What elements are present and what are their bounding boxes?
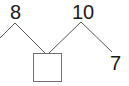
answer-blank-box[interactable]: [33, 53, 62, 82]
node-label-8: 8: [10, 2, 21, 22]
line-8-to-box: [15, 23, 45, 53]
line-10-to-7: [81, 22, 112, 52]
node-label-10: 10: [72, 2, 94, 22]
line-10-to-box: [49, 22, 81, 53]
line-8-to-left: [0, 23, 15, 38]
node-label-7: 7: [110, 53, 121, 73]
number-tree-diagram: 8 10 7: [0, 0, 129, 86]
